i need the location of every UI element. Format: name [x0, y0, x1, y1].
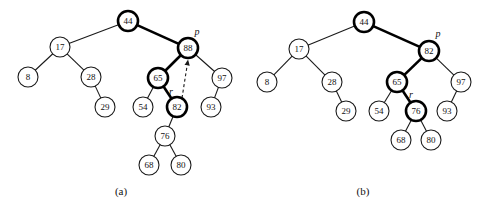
- node-97-label: 97: [218, 73, 228, 83]
- node-17-label: 17: [56, 42, 66, 52]
- node-68-label: 68: [145, 160, 155, 170]
- edge-82-97: [436, 58, 454, 76]
- node-68[interactable]: 68: [391, 130, 411, 150]
- node-54-label: 54: [139, 102, 149, 112]
- node-80[interactable]: 80: [171, 155, 191, 175]
- edge-97-93: [214, 87, 218, 98]
- edge-82-76: [169, 116, 174, 127]
- pointer-label-r: r: [409, 89, 413, 100]
- r-to-p-dashed-arrow: [182, 60, 188, 98]
- edge-76-80: [420, 119, 426, 131]
- node-29-label: 29: [101, 102, 111, 112]
- node-8-label: 8: [26, 72, 31, 82]
- pointer-label-r: r: [169, 86, 173, 97]
- edge-76-68: [405, 119, 411, 131]
- node-44-label: 44: [360, 17, 370, 27]
- node-44[interactable]: 44: [118, 11, 138, 31]
- edge-28-29: [95, 86, 101, 99]
- node-8-label: 8: [265, 77, 270, 87]
- node-54-label: 54: [375, 106, 385, 116]
- node-97[interactable]: 97: [451, 72, 471, 92]
- node-28[interactable]: 28: [322, 72, 342, 92]
- node-29[interactable]: 29: [95, 97, 115, 117]
- node-8[interactable]: 8: [257, 72, 277, 92]
- node-17[interactable]: 17: [50, 37, 70, 57]
- panel-a: 441788828659729548293766880pr(a): [18, 11, 232, 198]
- pointer-label-p: p: [194, 26, 200, 37]
- node-68[interactable]: 68: [139, 155, 159, 175]
- node-29-label: 29: [342, 106, 352, 116]
- node-97-label: 97: [457, 77, 467, 87]
- edge-17-8: [274, 56, 293, 75]
- node-80-label: 80: [427, 135, 437, 145]
- node-28-label: 28: [87, 72, 97, 82]
- node-65[interactable]: 65: [387, 72, 407, 92]
- edge-76-80: [170, 144, 177, 156]
- edge-17-28: [306, 56, 326, 76]
- edge-28-29: [336, 91, 342, 103]
- panel-b: 4417828286597295476936880pr(b): [257, 12, 471, 198]
- edge-44-82: [373, 26, 421, 47]
- edge-65-54: [384, 90, 392, 103]
- node-82-label: 82: [425, 46, 434, 56]
- panel-a-nodes: 441788828659729548293766880: [18, 11, 232, 175]
- node-93-label: 93: [443, 106, 453, 116]
- binary-tree-figure: 441788828659729548293766880pr(a)44178282…: [0, 0, 486, 210]
- edge-65-54: [147, 86, 153, 98]
- figure-root: 441788828659729548293766880pr(a)44178282…: [0, 0, 486, 210]
- node-76[interactable]: 76: [406, 101, 426, 121]
- node-65[interactable]: 65: [148, 68, 168, 88]
- node-44[interactable]: 44: [354, 12, 374, 32]
- node-93[interactable]: 93: [437, 101, 457, 121]
- pointer-label-p: p: [435, 28, 441, 39]
- node-28-label: 28: [328, 77, 338, 87]
- edge-76-68: [154, 144, 161, 156]
- edge-44-88: [137, 25, 180, 44]
- node-54[interactable]: 54: [369, 101, 389, 121]
- edge-17-28: [67, 54, 84, 71]
- tree-content-group: 441788828659729548293766880pr(a)44178282…: [18, 11, 471, 198]
- node-65-label: 65: [393, 77, 403, 87]
- node-28[interactable]: 28: [81, 67, 101, 87]
- node-65-label: 65: [154, 73, 164, 83]
- edge-97-93: [451, 91, 457, 103]
- node-88[interactable]: 88: [178, 38, 198, 58]
- node-8[interactable]: 8: [18, 67, 38, 87]
- node-80[interactable]: 80: [421, 130, 441, 150]
- node-17[interactable]: 17: [289, 39, 309, 59]
- node-76[interactable]: 76: [155, 126, 175, 146]
- edge-88-65: [165, 55, 182, 72]
- edge-44-17: [308, 26, 355, 46]
- node-54[interactable]: 54: [133, 97, 153, 117]
- node-82[interactable]: 82: [419, 41, 439, 61]
- edge-17-8: [35, 53, 53, 70]
- node-29[interactable]: 29: [336, 101, 356, 121]
- node-44-label: 44: [124, 16, 134, 26]
- node-68-label: 68: [397, 135, 407, 145]
- edge-82-65: [404, 58, 422, 76]
- node-97[interactable]: 97: [212, 68, 232, 88]
- edge-88-97: [195, 54, 215, 71]
- node-88-label: 88: [184, 43, 194, 53]
- node-82[interactable]: 82: [167, 97, 187, 117]
- caption-b: (b): [357, 185, 370, 198]
- edge-44-17: [69, 24, 119, 43]
- node-93-label: 93: [207, 102, 217, 112]
- node-17-label: 17: [295, 44, 305, 54]
- node-76-label: 76: [412, 106, 422, 116]
- node-93[interactable]: 93: [201, 97, 221, 117]
- node-80-label: 80: [177, 160, 187, 170]
- caption-a: (a): [115, 185, 128, 198]
- node-76-label: 76: [161, 131, 171, 141]
- node-82-label: 82: [173, 102, 182, 112]
